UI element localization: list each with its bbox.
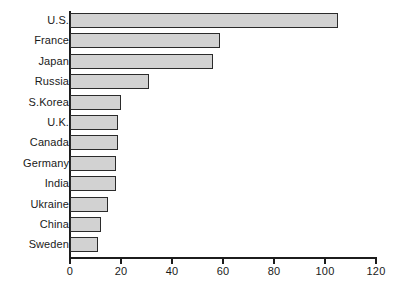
x-tick-label-40: 40 bbox=[166, 265, 179, 277]
x-tick-label-100: 100 bbox=[316, 265, 335, 277]
x-tick-label-80: 80 bbox=[268, 265, 281, 277]
category-label-japan: Japan bbox=[39, 55, 69, 67]
bar-chart: U.S.FranceJapanRussiaS.KoreaU.K.CanadaGe… bbox=[0, 0, 402, 295]
bar-sweden bbox=[70, 237, 98, 252]
x-tick-120 bbox=[375, 259, 377, 264]
x-tick-40 bbox=[171, 259, 173, 264]
bar-s-korea bbox=[70, 95, 121, 110]
bar-russia bbox=[70, 74, 149, 89]
category-label-india: India bbox=[45, 177, 69, 189]
x-tick-label-0: 0 bbox=[67, 265, 73, 277]
bar-india bbox=[70, 176, 116, 191]
category-label-s-korea: S.Korea bbox=[29, 96, 69, 108]
bar-germany bbox=[70, 156, 116, 171]
x-tick-100 bbox=[324, 259, 326, 264]
category-label-russia: Russia bbox=[35, 75, 69, 87]
bar-u-s bbox=[70, 13, 338, 28]
category-label-ukraine: Ukraine bbox=[30, 198, 69, 210]
x-tick-20 bbox=[120, 259, 122, 264]
category-label-germany: Germany bbox=[23, 157, 69, 169]
category-label-france: France bbox=[34, 34, 69, 46]
category-label-sweden: Sweden bbox=[29, 238, 69, 250]
bar-u-k bbox=[70, 115, 118, 130]
category-label-china: China bbox=[40, 218, 69, 230]
bar-france bbox=[70, 33, 220, 48]
bar-canada bbox=[70, 135, 118, 150]
category-label-u-k: U.K. bbox=[47, 116, 69, 128]
x-tick-80 bbox=[273, 259, 275, 264]
x-tick-0 bbox=[69, 259, 71, 264]
x-tick-label-120: 120 bbox=[367, 265, 386, 277]
bar-japan bbox=[70, 54, 213, 69]
bar-ukraine bbox=[70, 197, 108, 212]
x-tick-label-20: 20 bbox=[115, 265, 128, 277]
category-label-u-s: U.S. bbox=[47, 14, 69, 26]
bar-china bbox=[70, 217, 101, 232]
category-label-canada: Canada bbox=[30, 136, 69, 148]
x-tick-label-60: 60 bbox=[217, 265, 230, 277]
x-tick-60 bbox=[222, 259, 224, 264]
